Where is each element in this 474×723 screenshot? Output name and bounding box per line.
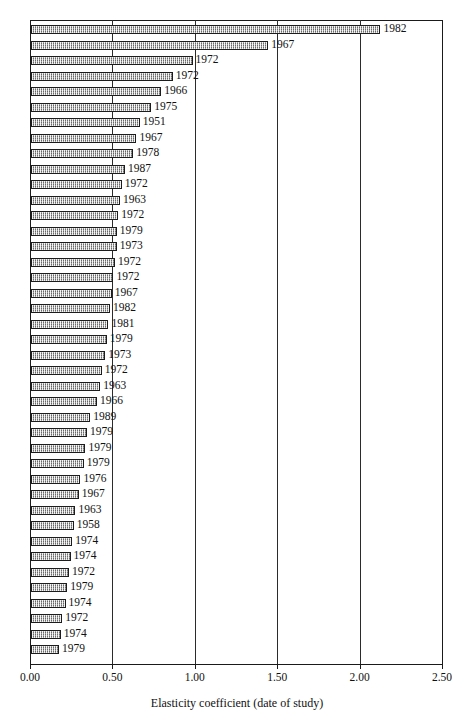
- bar-row[interactable]: 1976: [31, 472, 443, 488]
- bar-row[interactable]: 1973: [31, 348, 443, 364]
- bar-row[interactable]: 1972: [31, 255, 443, 271]
- bar-row[interactable]: 1963: [31, 379, 443, 395]
- bar-row[interactable]: 1972: [31, 53, 443, 69]
- bar[interactable]: [31, 304, 110, 313]
- bar-value-label: 1979: [87, 455, 110, 471]
- bar-row[interactable]: 1979: [31, 456, 443, 472]
- bar[interactable]: [31, 72, 173, 81]
- bar-row[interactable]: 1967: [31, 131, 443, 147]
- bar-row[interactable]: 1979: [31, 425, 443, 441]
- bar[interactable]: [31, 583, 67, 592]
- bar[interactable]: [31, 242, 117, 251]
- bar-row[interactable]: 1974: [31, 627, 443, 643]
- bar-row[interactable]: 1979: [31, 642, 443, 658]
- bar[interactable]: [31, 444, 85, 453]
- bar-value-label: 1979: [62, 641, 85, 657]
- bar-row[interactable]: 1979: [31, 224, 443, 240]
- bar-row[interactable]: 1967: [31, 487, 443, 503]
- x-tick-0.50: [112, 664, 113, 669]
- bar[interactable]: [31, 645, 59, 654]
- bar[interactable]: [31, 413, 90, 422]
- bar-row[interactable]: 1963: [31, 503, 443, 519]
- bar-row[interactable]: 1966: [31, 394, 443, 410]
- bar-value-label: 1974: [75, 533, 98, 549]
- bar[interactable]: [31, 475, 80, 484]
- x-tick-label-2.00: 2.00: [330, 671, 390, 683]
- bar[interactable]: [31, 289, 112, 298]
- bar-row[interactable]: 1974: [31, 596, 443, 612]
- bar[interactable]: [31, 490, 79, 499]
- bar-value-label: 1982: [113, 300, 136, 316]
- bar-row[interactable]: 1972: [31, 363, 443, 379]
- bar[interactable]: [31, 537, 72, 546]
- bar-value-label: 1972: [72, 564, 95, 580]
- bar-row[interactable]: 1972: [31, 611, 443, 627]
- bar-row[interactable]: 1982: [31, 22, 443, 38]
- bar-row[interactable]: 1981: [31, 317, 443, 333]
- bar[interactable]: [31, 521, 74, 530]
- bar[interactable]: [31, 56, 193, 65]
- bar[interactable]: [31, 614, 62, 623]
- bar-value-label: 1976: [83, 471, 106, 487]
- x-tick-1.50: [277, 664, 278, 669]
- bar-row[interactable]: 1972: [31, 208, 443, 224]
- bar-value-label: 1967: [271, 37, 294, 53]
- bar-row[interactable]: 1958: [31, 518, 443, 534]
- bar[interactable]: [31, 552, 71, 561]
- bar[interactable]: [31, 87, 161, 96]
- bar-value-label: 1951: [143, 114, 166, 130]
- x-tick-label-2.50: 2.50: [412, 671, 472, 683]
- bar-row[interactable]: 1974: [31, 549, 443, 565]
- bar-row[interactable]: 1979: [31, 441, 443, 457]
- bar[interactable]: [31, 149, 133, 158]
- bar-row[interactable]: 1979: [31, 332, 443, 348]
- chart-page: 1982196719721972196619751951196719781987…: [0, 0, 474, 723]
- bar[interactable]: [31, 630, 61, 639]
- bar[interactable]: [31, 118, 140, 127]
- bar-row[interactable]: 1951: [31, 115, 443, 131]
- bar-value-label: 1973: [108, 347, 131, 363]
- bar[interactable]: [31, 335, 107, 344]
- bar-row[interactable]: 1972: [31, 270, 443, 286]
- bar[interactable]: [31, 320, 108, 329]
- bar[interactable]: [31, 25, 380, 34]
- bar-value-label: 1974: [74, 548, 97, 564]
- bar-row[interactable]: 1967: [31, 286, 443, 302]
- bar-row[interactable]: 1966: [31, 84, 443, 100]
- bar[interactable]: [31, 211, 118, 220]
- bar[interactable]: [31, 382, 100, 391]
- bar[interactable]: [31, 428, 87, 437]
- bar[interactable]: [31, 351, 105, 360]
- bar-row[interactable]: 1972: [31, 565, 443, 581]
- bar[interactable]: [31, 568, 69, 577]
- bar[interactable]: [31, 180, 122, 189]
- bar-row[interactable]: 1967: [31, 38, 443, 54]
- bar[interactable]: [31, 134, 136, 143]
- bar[interactable]: [31, 366, 102, 375]
- bar[interactable]: [31, 397, 97, 406]
- bar[interactable]: [31, 196, 120, 205]
- bar[interactable]: [31, 41, 268, 50]
- x-tick-2.50: [442, 664, 443, 669]
- bar-row[interactable]: 1972: [31, 69, 443, 85]
- bar-row[interactable]: 1987: [31, 162, 443, 178]
- bar[interactable]: [31, 258, 115, 267]
- bar[interactable]: [31, 165, 125, 174]
- bar-row[interactable]: 1974: [31, 534, 443, 550]
- bar-row[interactable]: 1979: [31, 580, 443, 596]
- bar[interactable]: [31, 227, 117, 236]
- bar-row[interactable]: 1982: [31, 301, 443, 317]
- bar[interactable]: [31, 506, 75, 515]
- bar-row[interactable]: 1963: [31, 193, 443, 209]
- bar-value-label: 1972: [125, 176, 148, 192]
- bar[interactable]: [31, 273, 113, 282]
- bar[interactable]: [31, 103, 151, 112]
- bar-value-label: 1972: [176, 68, 199, 84]
- bar-row[interactable]: 1975: [31, 100, 443, 116]
- bar-row[interactable]: 1978: [31, 146, 443, 162]
- bar[interactable]: [31, 459, 84, 468]
- bar-row[interactable]: 1989: [31, 410, 443, 426]
- bar-row[interactable]: 1972: [31, 177, 443, 193]
- bar-row[interactable]: 1973: [31, 239, 443, 255]
- bar[interactable]: [31, 599, 66, 608]
